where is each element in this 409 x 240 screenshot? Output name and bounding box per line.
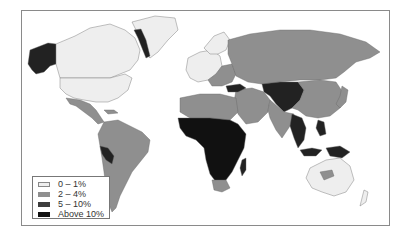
- region-indonesia: [300, 148, 322, 156]
- legend-swatch-above-10: [38, 212, 50, 217]
- legend-label: Above 10%: [58, 209, 104, 219]
- legend-item: 5 – 10%: [38, 199, 105, 209]
- region-middle-east: [234, 88, 270, 124]
- region-new-zealand: [360, 190, 368, 206]
- legend-item: 0 – 1%: [38, 179, 105, 189]
- region-southern-africa: [212, 180, 230, 192]
- region-usa: [60, 74, 132, 102]
- region-philippines: [316, 120, 326, 136]
- region-sub-saharan-africa: [178, 118, 246, 182]
- region-southeast-asia: [290, 114, 306, 148]
- legend-swatch-5-10: [38, 202, 50, 207]
- legend-label: 5 – 10%: [58, 199, 91, 209]
- region-canada: [56, 24, 140, 78]
- region-alaska: [28, 43, 56, 74]
- region-russia: [228, 30, 380, 84]
- legend-swatch-0-1: [38, 182, 50, 187]
- region-papua: [326, 146, 350, 158]
- region-north-africa: [180, 94, 238, 120]
- legend-label: 0 – 1%: [58, 179, 86, 189]
- region-caribbean: [104, 110, 118, 114]
- legend-label: 2 – 4%: [58, 189, 86, 199]
- legend-item: Above 10%: [38, 209, 105, 219]
- region-madagascar: [240, 158, 246, 176]
- region-scandinavia: [204, 32, 230, 54]
- map-legend: 0 – 1% 2 – 4% 5 – 10% Above 10%: [32, 176, 110, 219]
- legend-swatch-2-4: [38, 192, 50, 197]
- legend-item: 2 – 4%: [38, 189, 105, 199]
